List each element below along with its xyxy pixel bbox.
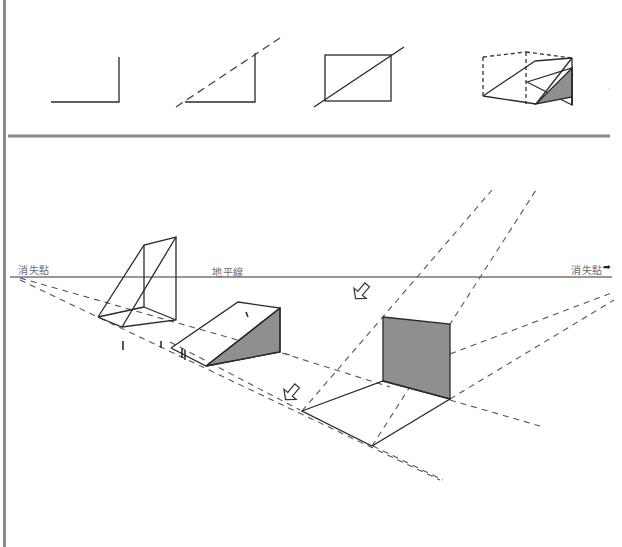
perspective-diagram-page: 消失點 地平線 消失點 ➡ (0, 0, 622, 547)
right-arrow-icon: ➡ (603, 262, 611, 272)
vanishing-point-right-label: 消失點 (571, 262, 603, 277)
step-2-diagonal-extension (176, 38, 280, 107)
prism-wireframe (98, 237, 176, 327)
horizon-line-label: 地平線 (212, 264, 244, 279)
bottom-panel (10, 190, 614, 480)
step-3-rectangle-diagonal (314, 47, 404, 107)
wall-and-floor (302, 317, 450, 446)
top-panel (51, 38, 610, 107)
arrow-upper-icon (349, 280, 373, 304)
diagram-canvas (0, 0, 622, 547)
left-vanishing-lines (20, 278, 440, 480)
vanishing-point-left-label: 消失點 (18, 262, 50, 277)
ramp-wedge (171, 302, 280, 366)
arrow-lower-icon (279, 381, 303, 405)
step-1-right-angle (51, 57, 119, 102)
pointer-arrows (279, 280, 373, 405)
step-4-wedge-in-box (483, 52, 572, 105)
